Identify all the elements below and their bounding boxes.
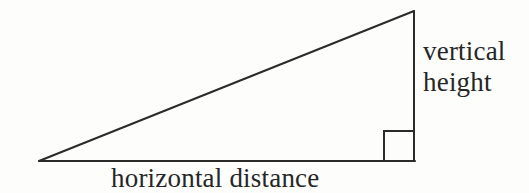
vertical-height-label-line2: height: [423, 67, 506, 98]
vertical-height-label-line1: vertical: [423, 36, 506, 67]
figure-root: vertical height horizontal distance: [0, 0, 529, 193]
vertical-height-label: vertical height: [423, 36, 506, 98]
horizontal-distance-label: horizontal distance: [111, 163, 319, 193]
